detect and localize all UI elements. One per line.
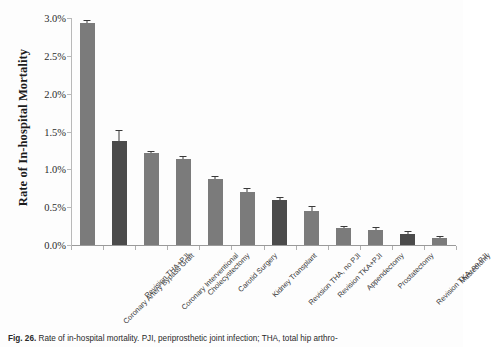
bar [272, 200, 287, 245]
y-axis-tick-mark [67, 18, 72, 19]
figure-caption-text: Rate of in-hospital mortality. PJI, peri… [39, 334, 338, 343]
bar [336, 228, 351, 245]
y-axis-tick-mark [67, 207, 72, 208]
bar-group [71, 18, 103, 245]
y-axis-tick-mark [67, 94, 72, 95]
error-bar-line [343, 227, 344, 229]
error-bar-line [119, 131, 120, 141]
x-axis-tick-mark [167, 246, 168, 250]
bar-group [296, 18, 328, 245]
error-bar-cap [372, 227, 379, 228]
error-bar-cap [340, 226, 347, 227]
error-bar-cap [308, 206, 315, 207]
x-axis-tick-mark [71, 246, 72, 250]
bar-group [328, 18, 360, 245]
x-axis-tick-mark [360, 246, 361, 250]
y-axis-tick-mark [67, 56, 72, 57]
x-axis-tick-mark [296, 246, 297, 250]
bar [80, 23, 95, 245]
error-bar-line [215, 177, 216, 179]
bar [176, 159, 191, 245]
error-bar-line [183, 157, 184, 159]
y-axis-tick-label: 1.5% [24, 126, 66, 137]
x-axis-tick-labels: Coronary Artery Bypass GraftRevision THA… [71, 249, 463, 331]
chart-plot-area: Rate of In-hospital Mortality 0.0%0.5%1.… [0, 0, 463, 330]
error-bar-line [247, 189, 248, 192]
y-axis-tick-mark [67, 132, 72, 133]
bar-group [392, 18, 424, 245]
bar-group [360, 18, 392, 245]
x-axis-tick-mark [231, 246, 232, 250]
y-axis-tick-label: 3.0% [24, 13, 66, 24]
error-bar-cap [180, 156, 187, 157]
x-axis-tick-mark [199, 246, 200, 250]
bar [368, 230, 383, 245]
bar [400, 234, 415, 245]
y-axis-tick-label: 0.5% [24, 202, 66, 213]
error-bar-cap [148, 151, 155, 152]
error-bar-cap [244, 188, 251, 189]
error-bar-line [151, 152, 152, 154]
bar-group [264, 18, 296, 245]
y-axis-tick-label: 1.0% [24, 164, 66, 175]
x-axis-tick-mark [456, 246, 457, 250]
y-axis-tick-label: 0.0% [24, 240, 66, 251]
x-axis-tick-mark [424, 246, 425, 250]
figure-caption: Fig. 26. Rate of in-hospital mortality. … [8, 333, 460, 344]
x-axis-tick-mark [392, 246, 393, 250]
bar [112, 141, 127, 245]
error-bar-cap [404, 231, 411, 232]
error-bar-cap [116, 130, 123, 131]
bars-layer [71, 18, 456, 245]
error-bar-line [87, 21, 88, 23]
bar-group [424, 18, 456, 245]
x-axis-tick-label: Mastectomy [458, 251, 492, 286]
x-axis-tick-label: Revision THA+PJI [143, 251, 192, 300]
error-bar-line [375, 228, 376, 230]
bar [304, 211, 319, 245]
error-bar-cap [276, 197, 283, 198]
bar-group [135, 18, 167, 245]
y-axis-tick-mark [67, 169, 72, 170]
bar [240, 192, 255, 245]
x-axis-tick-mark [328, 246, 329, 250]
bar [144, 153, 159, 245]
bar-group [103, 18, 135, 245]
error-bar-line [407, 232, 408, 234]
x-axis-tick-mark [264, 246, 265, 250]
y-axis-tick-label: 2.5% [24, 50, 66, 61]
x-axis-tick-mark [135, 246, 136, 250]
y-axis-tick-labels: 0.0%0.5%1.0%1.5%2.0%2.5%3.0% [22, 0, 66, 330]
error-bar-line [279, 198, 280, 200]
x-axis-tick-mark [103, 246, 104, 250]
error-bar-cap [212, 176, 219, 177]
error-bar-line [439, 237, 440, 238]
bar [432, 238, 447, 245]
error-bar-cap [84, 20, 91, 21]
bar-group [231, 18, 263, 245]
error-bar-cap [436, 236, 443, 237]
bar-group [167, 18, 199, 245]
y-axis-tick-label: 2.0% [24, 88, 66, 99]
error-bar-line [311, 207, 312, 211]
bar-group [199, 18, 231, 245]
bar [208, 179, 223, 245]
figure-caption-label: Fig. 26. [8, 334, 36, 343]
